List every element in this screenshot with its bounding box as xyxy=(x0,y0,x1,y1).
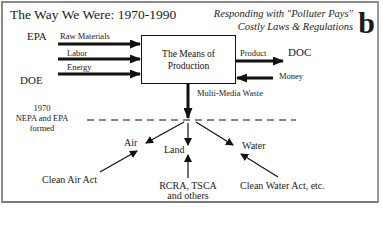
clean-air-act-label: Clean Air Act xyxy=(42,175,97,185)
product-label: Product xyxy=(240,49,266,58)
timeline-event-cont: formed xyxy=(10,123,74,133)
to-air-arrow xyxy=(146,122,184,143)
raw-materials-label: Raw Materials xyxy=(60,32,110,41)
box-label-line-2: Production xyxy=(142,60,235,72)
rcra-tsca-label: RCRA, TSCA and others xyxy=(150,181,226,201)
timeline-year: 1970 xyxy=(10,103,74,113)
clean-air-act-arrow xyxy=(100,151,137,172)
means-of-production-box: The Means of Production xyxy=(141,35,236,84)
money-label: Money xyxy=(279,72,303,81)
air-label: Air xyxy=(124,138,137,148)
rcra-line-2: and others xyxy=(150,191,226,201)
labor-label: Labor xyxy=(67,49,87,58)
water-label: Water xyxy=(242,141,266,151)
clean-water-act-label: Clean Water Act, etc. xyxy=(240,181,325,191)
box-label-line-1: The Means of xyxy=(142,48,235,60)
land-label: Land xyxy=(164,145,185,155)
doc-label: DOC xyxy=(288,47,311,58)
to-water-arrow xyxy=(196,122,233,145)
epa-label: EPA xyxy=(27,31,47,42)
doe-label: DOE xyxy=(20,75,43,86)
timeline-note: 1970 NEPA and EPA formed xyxy=(10,103,74,133)
clean-water-act-arrow xyxy=(241,154,278,177)
timeline-event: NEPA and EPA xyxy=(10,113,74,123)
waste-label: Multi-Media Waste xyxy=(197,89,263,98)
energy-label: Energy xyxy=(67,63,91,72)
